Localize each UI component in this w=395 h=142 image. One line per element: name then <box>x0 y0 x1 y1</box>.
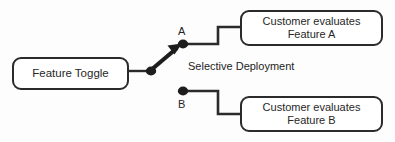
source-dot-icon <box>146 67 156 76</box>
branch-node-b-dot-icon <box>178 87 188 96</box>
branch-node-a-dot-icon <box>178 40 188 49</box>
diagram-canvas: Feature Toggle Customer evaluates Featur… <box>0 0 395 142</box>
branch-label-a: A <box>178 25 185 37</box>
node-customer-b-label-line1: Customer evaluates <box>263 101 361 114</box>
node-feature-toggle[interactable]: Feature Toggle <box>12 57 129 90</box>
node-customer-a-label-line1: Customer evaluates <box>263 15 361 28</box>
annotation-selective-deployment: Selective Deployment <box>188 60 294 72</box>
branch-label-b: B <box>178 98 185 110</box>
node-customer-b-label-line2: Feature B <box>263 114 361 127</box>
node-customer-a-label-line2: Feature A <box>263 28 361 41</box>
connector-branch-a <box>184 27 241 44</box>
node-customer-evaluates-feature-b[interactable]: Customer evaluates Feature B <box>240 96 383 132</box>
node-customer-evaluates-feature-a[interactable]: Customer evaluates Feature A <box>240 10 383 46</box>
connector-branch-b <box>184 91 241 114</box>
node-feature-toggle-label: Feature Toggle <box>32 66 109 80</box>
